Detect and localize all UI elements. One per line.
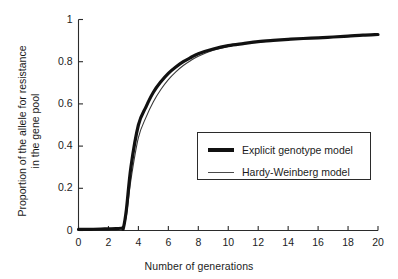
x-tick-label: 12	[243, 236, 273, 248]
legend-item: Explicit genotype model	[208, 142, 353, 158]
legend-item-label: Hardy-Weinberg model	[242, 166, 350, 178]
legend-line-swatch-thick	[208, 148, 234, 151]
axes	[79, 20, 379, 231]
x-tick-label: 14	[273, 236, 303, 248]
legend-item: Hardy-Weinberg model	[208, 164, 350, 180]
x-tick-label: 0	[64, 236, 94, 248]
legend-line-swatch-thin	[208, 172, 234, 173]
y-axis-title: Proportion of the allele for resistance …	[16, 16, 50, 246]
x-tick-label: 16	[303, 236, 333, 248]
x-axis-title: Number of generations	[0, 260, 398, 272]
x-tick-label: 20	[363, 236, 393, 248]
x-tick-label: 10	[213, 236, 243, 248]
x-tick-label: 2	[93, 236, 123, 248]
y-axis-title-line-1: Proportion of the allele for resistance	[16, 16, 29, 246]
x-tick-label: 8	[183, 236, 213, 248]
x-tick-label: 6	[153, 236, 183, 248]
chart-legend: Explicit genotype modelHardy-Weinberg mo…	[197, 132, 371, 180]
x-tick-label: 4	[123, 236, 153, 248]
chart-figure: 00.20.40.60.81 02468101214161820 Proport…	[0, 0, 398, 279]
legend-item-label: Explicit genotype model	[242, 144, 353, 156]
x-tick-label: 18	[333, 236, 363, 248]
y-axis-title-line-2: in the gene pool	[29, 16, 42, 246]
